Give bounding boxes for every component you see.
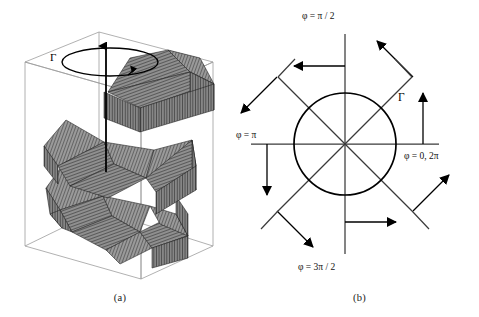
gamma-label-a: Γ <box>50 51 56 63</box>
velocity-arrow-phi-3pi-4 <box>241 77 277 113</box>
label-phi-pi: φ = π <box>236 131 256 141</box>
caption-a: (a) <box>0 292 240 303</box>
connector-sw <box>261 211 278 229</box>
caption-b: (b) <box>240 292 479 303</box>
panel-b: Γ φ = π / 2 φ = π φ = 0, 2π φ = 3π / 2 (… <box>240 0 479 317</box>
velocity-arrow-phi-5pi-4 <box>277 211 313 247</box>
diameter-lines <box>251 34 439 254</box>
label-phi-pi-over-2: φ = π / 2 <box>302 12 335 22</box>
gamma-label-b: Γ <box>398 91 405 103</box>
velocity-arrow-phi-7pi-4 <box>413 175 449 211</box>
helicoid-upper-turn <box>104 50 214 132</box>
figure-root: Γ (a) <box>0 0 479 317</box>
label-phi-zero-two-pi: φ = 0, 2π <box>404 152 439 162</box>
panel-a: Γ (a) <box>0 0 240 317</box>
connector-se <box>412 211 429 229</box>
connector-nw <box>278 59 295 77</box>
connector-ne <box>395 59 412 77</box>
label-phi-3pi-over-2: φ = 3π / 2 <box>298 263 335 273</box>
panel-b-graphic: Γ <box>240 0 479 317</box>
panel-a-graphic: Γ <box>0 0 240 317</box>
